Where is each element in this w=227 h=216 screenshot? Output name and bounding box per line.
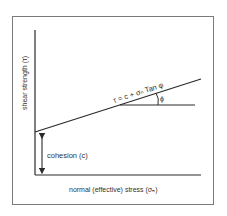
friction-angle-arc (156, 93, 158, 105)
mohr-coulomb-diagram: shear strength (τ) normal (effective) st… (0, 0, 227, 216)
y-axis-label: shear strength (τ) (21, 56, 29, 110)
cohesion-label: cohesion (c) (47, 151, 88, 160)
angle-label: ϕ (160, 95, 164, 103)
diagram-frame (13, 17, 214, 205)
x-axis-label: normal (effective) stress (σₙ) (69, 186, 158, 194)
